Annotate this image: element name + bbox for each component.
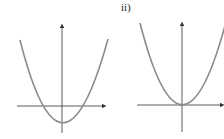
graph-2 bbox=[137, 22, 224, 132]
graph-1 bbox=[17, 26, 108, 133]
diagram-canvas bbox=[0, 0, 224, 139]
graph-1-parabola bbox=[20, 39, 108, 123]
